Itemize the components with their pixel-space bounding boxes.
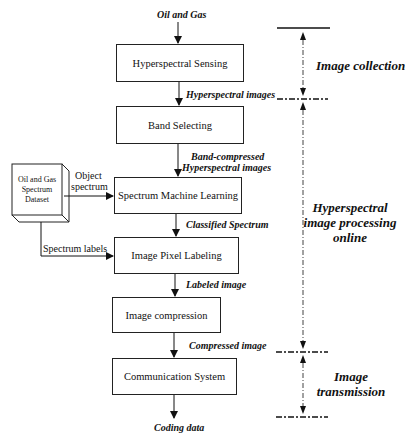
object-spectrum-label-1: Object — [75, 170, 102, 181]
stage-arrow-up-1 — [300, 32, 306, 40]
stage-processing-online: Hyperspectral image processing online — [300, 200, 400, 245]
box-image-pixel-labeling: Image Pixel Labeling — [114, 237, 239, 274]
edge-label-compressed-image: Compressed image — [189, 340, 267, 351]
output-label: Coding data — [154, 422, 204, 433]
stage-image-transmission: Image transmission — [306, 369, 396, 399]
stage-image-collection: Image collection — [316, 58, 405, 73]
spectrum-labels-label: Spectrum labels — [43, 243, 107, 254]
edge-label-labeled-image: Labeled image — [186, 279, 246, 290]
stage-arrow-up-2 — [300, 102, 306, 110]
edge-label-band-compressed: Band-compressed — [191, 151, 264, 162]
edge-label-classified-spectrum: Classified Spectrum — [186, 219, 269, 230]
edge-label-hyperspectral-images: Hyperspectral images — [186, 89, 275, 100]
box-band-selecting: Band Selecting — [116, 106, 244, 144]
box-communication-system: Communication System — [112, 358, 237, 395]
object-spectrum-label-2: spectrum — [71, 181, 108, 192]
input-label: Oil and Gas — [157, 9, 206, 20]
stage-arrow-down-2 — [300, 341, 306, 349]
dataset-label: Oil and Gas Spectrum Dataset — [12, 175, 62, 205]
stage-arrow-down-1 — [300, 88, 306, 96]
edge-label-band-compressed-images: Hyperspectral images — [182, 162, 271, 173]
box-spectrum-machine-learning: Spectrum Machine Learning — [114, 177, 242, 214]
box-hyperspectral-sensing: Hyperspectral Sensing — [116, 44, 244, 82]
stage-arrow-down-3 — [300, 406, 306, 414]
box-image-compression: Image compression — [112, 297, 221, 333]
stage-arrow-up-3 — [300, 355, 306, 363]
